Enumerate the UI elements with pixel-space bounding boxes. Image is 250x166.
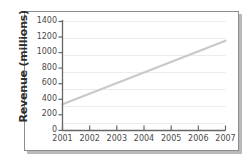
y-tick-label-800: 800: [31, 63, 57, 72]
y-tick-label-400: 400: [31, 94, 57, 103]
y-tick-label-1200: 1200: [31, 32, 57, 41]
x-tick-label-2003: 2003: [102, 134, 132, 143]
y-tick-label-600: 600: [31, 78, 57, 87]
x-axis-ticks: [63, 126, 226, 131]
y-tick-label-1000: 1000: [31, 47, 57, 56]
y-axis-label: Revenue (millions): [17, 15, 30, 123]
x-tick-label-2007: 2007: [211, 134, 241, 143]
x-tick-label-2004: 2004: [129, 134, 159, 143]
x-tick-label-2001: 2001: [48, 134, 78, 143]
x-tick-label-2006: 2006: [183, 134, 213, 143]
x-tick-label-2005: 2005: [156, 134, 186, 143]
y-tick-label-1400: 1400: [31, 16, 57, 25]
y-tick-label-200: 200: [31, 109, 57, 118]
chart-figure: Revenue (millions) 1400 1200 1000 800 60…: [0, 0, 250, 166]
y-tick-label-0: 0: [31, 125, 57, 134]
x-tick-label-2002: 2002: [75, 134, 105, 143]
